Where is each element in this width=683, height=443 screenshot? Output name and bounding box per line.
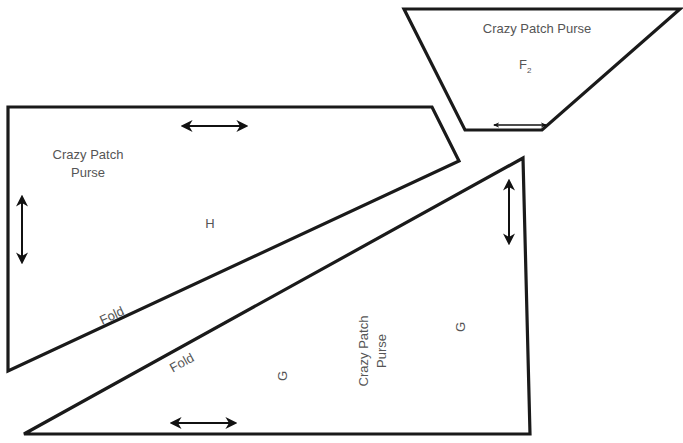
piece-h-title-line1: Crazy Patch (53, 147, 124, 162)
piece-g-letter-1: G (275, 371, 290, 381)
piece-g-title-line1: Crazy Patch (356, 316, 371, 387)
piece-g-letter-2: G (453, 322, 468, 332)
piece-h-title-line2: Purse (71, 165, 105, 180)
pattern-diagram: Crazy Patch Purse F2 Crazy Patch Purse H… (0, 0, 683, 443)
piece-f2-title: Crazy Patch Purse (483, 21, 591, 36)
piece-h-letter: H (205, 216, 214, 231)
piece-g-title-line2: Purse (374, 334, 389, 368)
piece-f2: Crazy Patch Purse F2 (404, 9, 680, 130)
